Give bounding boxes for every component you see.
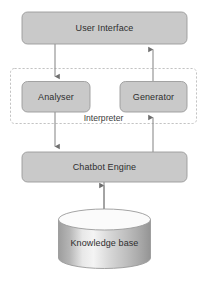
node-analyser[interactable]: Analyser xyxy=(22,82,90,113)
knowledge-base-label: Knowledge base xyxy=(71,238,139,248)
node-generator[interactable]: Generator xyxy=(120,82,187,113)
chatbot-engine-label: Chatbot Engine xyxy=(73,162,136,172)
node-chatbot-engine[interactable]: Chatbot Engine xyxy=(22,152,187,182)
generator-label: Generator xyxy=(133,92,174,102)
interpreter-label: Interpreter xyxy=(84,113,124,123)
user-interface-label: User Interface xyxy=(76,23,134,33)
knowledge-base-cylinder-top[interactable] xyxy=(59,209,151,230)
node-user-interface[interactable]: User Interface xyxy=(22,12,187,44)
chatbot-architecture-diagram: User Interface Analyser Generator Interp… xyxy=(0,0,207,283)
analyser-label: Analyser xyxy=(38,92,74,102)
node-knowledge-base[interactable]: Knowledge base xyxy=(59,209,151,269)
diagram-canvas: User Interface Analyser Generator Interp… xyxy=(0,0,207,283)
